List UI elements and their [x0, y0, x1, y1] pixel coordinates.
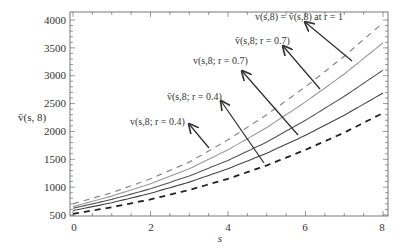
annotation-r1: v(s,8) = v̄(s,8) at r = 1	[255, 11, 343, 23]
x-tick-8: 8	[379, 221, 385, 233]
series-line-4	[73, 113, 383, 214]
series-line-0	[73, 23, 383, 204]
chart: 4000 3500 3000 2500 2000 1500 1000 500 0…	[0, 0, 402, 249]
x-axis-label: s	[218, 232, 222, 244]
annotation-v07: v(s,8; r = 0.7)	[193, 55, 248, 67]
x-tick-0: 0	[71, 221, 77, 233]
y-axis-label: v̄(s, 8)	[18, 111, 46, 124]
y-tick-3000: 3000	[44, 69, 67, 81]
annotation-vbar04: v̄(s,8; r = 0.4)	[167, 91, 222, 103]
y-tick-1000: 1000	[44, 181, 67, 193]
x-tick-4: 4	[225, 221, 231, 233]
y-tick-2500: 2500	[44, 97, 67, 109]
annotation-vbar07: v̄(s,8; r = 0.7)	[235, 35, 290, 47]
y-tick-3500: 3500	[44, 42, 67, 54]
annotation-v04: v(s,8; r = 0.4)	[130, 116, 185, 128]
plot-frame	[70, 12, 388, 216]
y-tick-2000: 2000	[44, 125, 67, 137]
arrow-v04	[189, 124, 209, 148]
series-line-1	[73, 43, 383, 207]
x-tick-2: 2	[148, 221, 154, 233]
y-tick-1500: 1500	[44, 153, 67, 165]
x-tick-6: 6	[302, 221, 308, 233]
data-series	[73, 23, 383, 214]
arrow-vbar07	[283, 46, 320, 89]
x-axis-ticks	[73, 12, 383, 216]
y-tick-500: 500	[50, 209, 67, 221]
y-tick-4000: 4000	[44, 14, 67, 26]
arrow-r1	[305, 22, 352, 61]
